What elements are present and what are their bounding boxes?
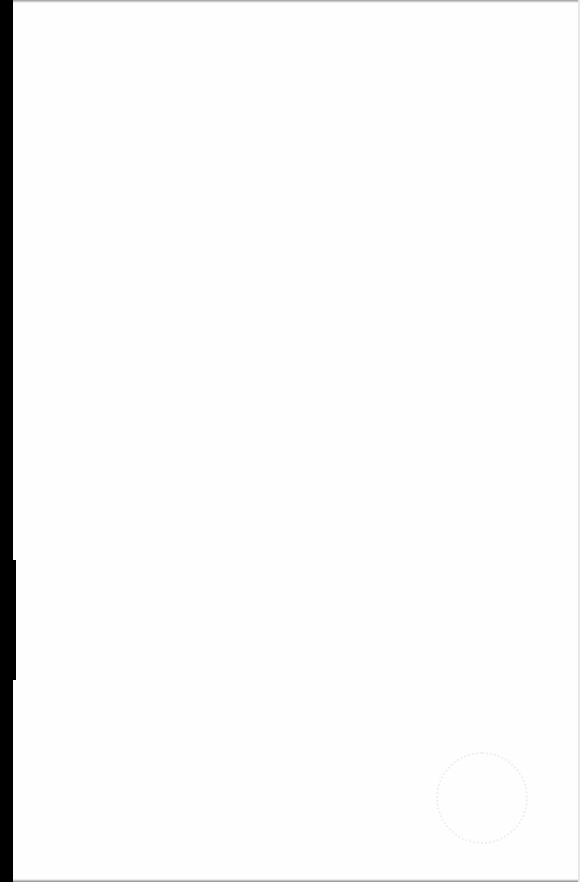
binding-edge bbox=[0, 0, 13, 882]
binding-edge-irregularity bbox=[13, 560, 16, 680]
faint-library-stamp bbox=[436, 752, 528, 844]
top-scan-shadow bbox=[13, 0, 580, 3]
scanned-page bbox=[0, 0, 580, 882]
